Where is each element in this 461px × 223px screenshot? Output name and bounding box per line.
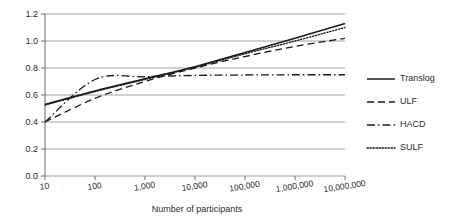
x-axis-tick-label: 10 — [39, 180, 50, 191]
y-axis-tick-label: 0.8 — [25, 63, 38, 73]
x-axis-title: Number of participants — [152, 204, 243, 214]
y-axis-tick-label: 0.2 — [25, 144, 38, 154]
y-axis-tick-label: 0.4 — [25, 117, 38, 127]
legend-label: Translog — [400, 73, 435, 83]
y-axis-tick-label: 1.2 — [25, 9, 38, 19]
y-axis-tick-label: 0.0 — [25, 171, 38, 181]
legend-label: ULF — [400, 96, 418, 106]
y-axis-tick-label: 0.6 — [25, 90, 38, 100]
line-chart: 0.00.20.40.60.81.01.2 101001,00010,00010… — [0, 0, 461, 223]
legend-label: SULF — [400, 142, 424, 152]
legend-label: HACD — [400, 119, 426, 129]
chart-container: 0.00.20.40.60.81.01.2 101001,00010,00010… — [0, 0, 461, 223]
y-axis-tick-label: 1.0 — [25, 36, 38, 46]
